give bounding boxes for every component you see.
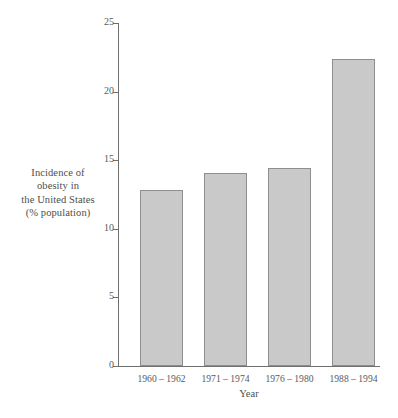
x-axis-tick-label: 1976 – 1980 [256,373,324,384]
y-axis-title-line-3: the United States [6,193,110,206]
x-axis-title: Year [118,388,380,399]
y-axis-title-line-2: obesity in [6,179,110,192]
y-axis-tick: 10 [118,229,124,230]
y-axis-tick-label: 10 [104,222,114,233]
plot-area: 0510152025 1960 – 19621971 – 19741976 – … [118,18,380,371]
y-axis-title-line-1: Incidence of [6,166,110,179]
y-axis-tick-label: 5 [109,290,114,301]
y-axis-tick: 20 [118,92,124,93]
x-axis-tick-label: 1971 – 1974 [192,373,260,384]
y-axis-tick: 0 [118,366,124,367]
bar [204,173,247,366]
y-axis-tick-label: 20 [104,85,114,96]
bar [140,190,183,366]
y-axis-tick-label: 15 [104,153,114,164]
bar-chart: Incidence of obesity in the United State… [0,0,398,418]
y-axis-title: Incidence of obesity in the United State… [6,166,110,220]
y-axis-tick: 15 [118,160,124,161]
bar [268,168,311,366]
x-axis-tick-label: 1988 – 1994 [320,373,388,384]
y-axis-tick: 25 [118,23,124,24]
y-axis-tick-label: 25 [104,16,114,27]
y-axis-tick: 5 [118,297,124,298]
x-axis-tick-label: 1960 – 1962 [128,373,196,384]
bar [332,59,375,366]
x-axis-line [118,366,380,367]
y-axis-tick-label: 0 [109,359,114,370]
y-axis-line [118,23,119,367]
y-axis-title-line-4: (% population) [6,206,110,219]
